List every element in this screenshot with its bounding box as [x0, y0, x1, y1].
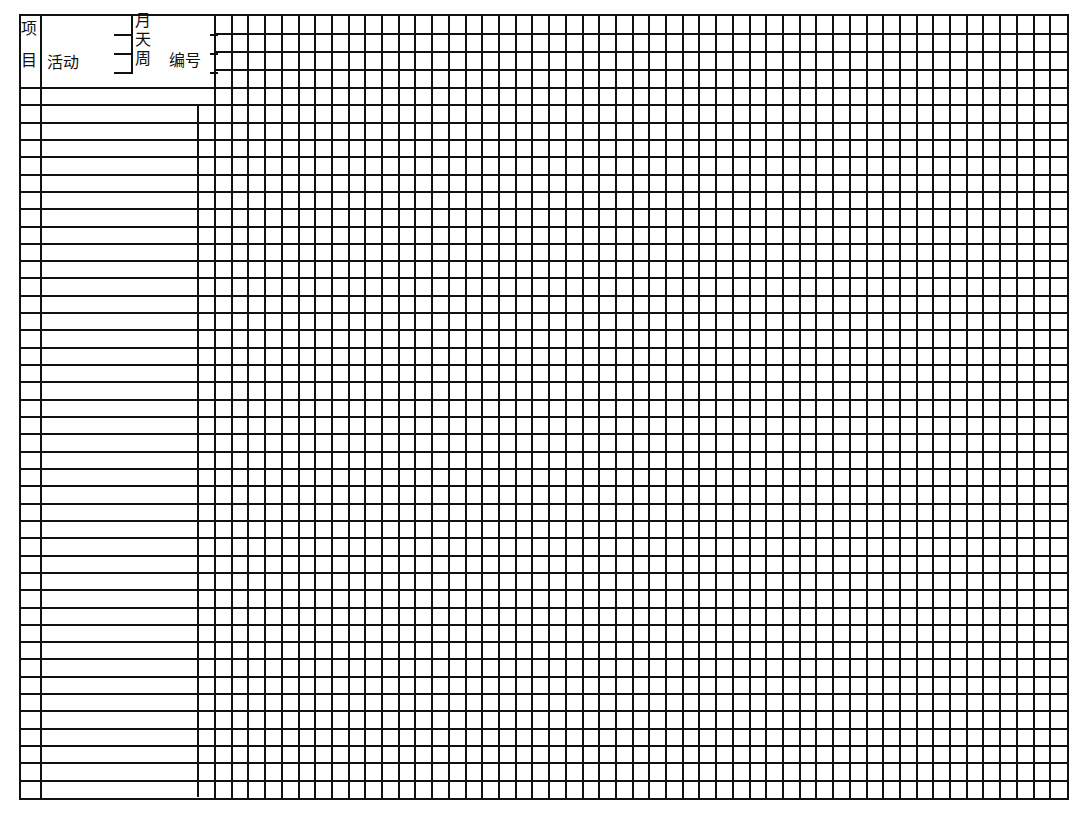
project-column-line: [40, 16, 42, 798]
row-line: [21, 295, 1067, 297]
row-line: [21, 433, 1067, 435]
row-line: [21, 191, 1067, 193]
grid-column-line: [214, 16, 216, 798]
row-line: [21, 641, 1067, 643]
grid-column-line: [1016, 16, 1018, 798]
row-line: [21, 104, 1067, 106]
grid-column-line: [531, 16, 533, 798]
row-line: [21, 503, 1067, 505]
grid-header-line: [215, 51, 1067, 53]
grid-column-line: [866, 16, 868, 798]
grid-column-line: [314, 16, 316, 798]
grid-column-line: [231, 16, 233, 798]
grid-column-line: [999, 16, 1001, 798]
row-line: [21, 589, 1067, 591]
row-line: [21, 329, 1067, 331]
grid-column-line: [615, 16, 617, 798]
row-line: [21, 693, 1067, 695]
grid-column-line: [715, 16, 717, 798]
number-column-line: [197, 104, 199, 797]
grid-column-line: [398, 16, 400, 798]
project-label-top: 项: [21, 20, 37, 38]
grid-column-line: [515, 16, 517, 798]
day-label: 天: [135, 31, 151, 49]
row-line: [21, 347, 1067, 349]
grid-column-line: [264, 16, 266, 798]
row-line: [21, 451, 1067, 453]
row-line: [21, 555, 1067, 557]
grid-column-line: [414, 16, 416, 798]
grid-column-line: [648, 16, 650, 798]
grid-column-line: [916, 16, 918, 798]
row-line: [21, 468, 1067, 470]
grid-column-line: [448, 16, 450, 798]
grid-column-line: [698, 16, 700, 798]
row-line: [21, 277, 1067, 279]
grid-column-line: [849, 16, 851, 798]
row-line: [21, 537, 1067, 539]
row-line: [21, 780, 1067, 782]
grid-header-line: [215, 33, 1067, 35]
grid-column-line: [632, 16, 634, 798]
grid-column-line: [381, 16, 383, 798]
row-line: [21, 658, 1067, 660]
grid-column-line: [982, 16, 984, 798]
row-line: [21, 226, 1067, 228]
row-line: [21, 416, 1067, 418]
grid-column-line: [765, 16, 767, 798]
row-line: [21, 485, 1067, 487]
row-line: [21, 762, 1067, 764]
row-line: [21, 728, 1067, 730]
row-line: [21, 710, 1067, 712]
grid-column-line: [966, 16, 968, 798]
row-line: [21, 364, 1067, 366]
row-line: [21, 312, 1067, 314]
grid-column-line: [565, 16, 567, 798]
grid-column-line: [348, 16, 350, 798]
grid-column-line: [899, 16, 901, 798]
row-line: [21, 243, 1067, 245]
grid-column-line: [598, 16, 600, 798]
bracket-tick-day: [114, 53, 133, 55]
grid-column-line: [949, 16, 951, 798]
row-line: [21, 260, 1067, 262]
row-line: [21, 208, 1067, 210]
row-line: [21, 676, 1067, 678]
row-line: [21, 156, 1067, 158]
row-line: [21, 139, 1067, 141]
grid-column-line: [1033, 16, 1035, 798]
week-label: 周: [135, 50, 151, 68]
row-line: [21, 745, 1067, 747]
header-bracket: [131, 14, 133, 72]
grid-column-line: [431, 16, 433, 798]
grid-column-line: [247, 16, 249, 798]
month-label: 月: [135, 12, 151, 30]
grid-column-line: [882, 16, 884, 798]
grid-column-line: [665, 16, 667, 798]
row-line: [21, 174, 1067, 176]
project-label-bottom: 目: [21, 52, 37, 70]
row-line: [21, 520, 1067, 522]
grid-column-line: [298, 16, 300, 798]
grid-column-line: [815, 16, 817, 798]
grid-column-line: [481, 16, 483, 798]
grid-column-line: [1049, 16, 1051, 798]
grid-column-line: [732, 16, 734, 798]
grid-header-line: [215, 69, 1067, 71]
row-line: [21, 607, 1067, 609]
row-line: [21, 624, 1067, 626]
grid-column-line: [582, 16, 584, 798]
grid-column-line: [832, 16, 834, 798]
bracket-tick-month: [114, 34, 133, 36]
bracket-tick-week: [114, 72, 133, 74]
grid-column-line: [281, 16, 283, 798]
grid-column-line: [782, 16, 784, 798]
gantt-chart-form: 项 目 活动 月 天 周 编号: [19, 14, 1069, 800]
row-line: [21, 572, 1067, 574]
activity-header: 活动: [47, 54, 79, 72]
grid-column-line: [799, 16, 801, 798]
header-bottom-line: [21, 87, 1067, 89]
grid-column-line: [682, 16, 684, 798]
row-line: [21, 399, 1067, 401]
grid-column-line: [364, 16, 366, 798]
